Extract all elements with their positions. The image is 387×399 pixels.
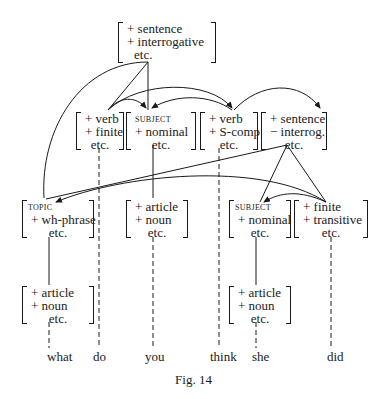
node-verb-do: + verb + finite etc.	[76, 112, 124, 150]
node-finite-did: + finite + transitive etc.	[294, 200, 368, 238]
node-subject-you: subject + nominal etc.	[126, 112, 196, 150]
node-topic: topic + wh-phrase etc.	[22, 200, 94, 238]
figure-caption: Fig. 14	[0, 372, 387, 388]
node-noun-she: + article + noun etc.	[229, 286, 291, 324]
word-think: think	[210, 349, 237, 365]
node-verb-think: + verb + S-comp etc.	[200, 112, 258, 150]
node-noun-what: + article + noun etc.	[22, 286, 94, 324]
word-what: what	[47, 349, 72, 365]
word-did: did	[327, 349, 344, 365]
node-subject-she: subject + nominal etc.	[229, 200, 291, 238]
node-noun-you: + article + noun etc.	[126, 200, 188, 238]
word-do: do	[93, 349, 106, 365]
word-she: she	[252, 349, 269, 365]
node-root: + sentence + interrogative etc.	[118, 22, 216, 63]
word-you: you	[145, 349, 165, 365]
node-embedded-sentence: + sentence − interrog. etc.	[261, 112, 327, 150]
